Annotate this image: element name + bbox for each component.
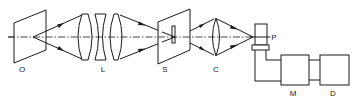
label-m: M [290, 89, 297, 98]
slit [172, 26, 175, 43]
arrow-icon [230, 45, 238, 50]
module-d [320, 55, 349, 85]
label-s: S [162, 65, 167, 74]
label-l: L [101, 65, 106, 74]
optical-system-diagram: O L S C P M D [0, 0, 360, 101]
module-m [281, 55, 309, 85]
object-plane-o [8, 10, 46, 63]
connector-m-d [309, 60, 320, 80]
arrow-icon [57, 46, 64, 51]
label-d: D [330, 89, 336, 98]
label-c: C [213, 65, 219, 74]
detector-flange [252, 45, 269, 50]
detector-pipe [255, 50, 281, 81]
arrow-icon [230, 25, 238, 30]
label-p: P [271, 33, 276, 42]
arrow-icon [138, 22, 146, 26]
arrow-icon [138, 49, 146, 53]
arrow-icon [57, 23, 64, 28]
arrow-icon [199, 24, 205, 29]
label-o: O [19, 65, 25, 74]
arrow-icon [199, 46, 205, 51]
slit-plane-s [158, 9, 190, 64]
